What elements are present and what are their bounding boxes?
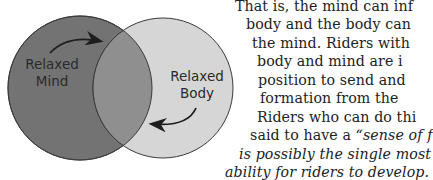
text-line-2: body and the body can: [246, 16, 411, 32]
relaxed-mind-label-line2: Mind: [36, 73, 69, 89]
text-line-8-italic: “sense of f: [356, 127, 433, 143]
venn-svg: Relaxed Mind Relaxed Body: [0, 0, 240, 179]
relaxed-body-label-line2: Body: [180, 85, 214, 101]
text-line-8: said to have a “sense of f: [250, 127, 433, 143]
relaxed-mind-label-line1: Relaxed: [25, 56, 79, 72]
text-line-6: formation from the: [260, 90, 399, 106]
text-line-7: Riders who can do thi: [257, 109, 416, 125]
text-line-8-roman: said to have a: [250, 127, 356, 143]
text-line-9: is possibly the single most: [239, 146, 431, 162]
relaxed-body-label-line1: Relaxed: [170, 68, 224, 84]
text-line-1: That is, the mind can inf: [235, 0, 413, 14]
text-line-3: the mind. Riders with: [252, 35, 410, 51]
text-line-4: body and mind are i: [257, 53, 403, 69]
venn-diagram: Relaxed Mind Relaxed Body: [0, 0, 240, 179]
text-line-10: ability for riders to develop.: [225, 164, 429, 180]
text-line-5: position to send and: [258, 72, 406, 88]
